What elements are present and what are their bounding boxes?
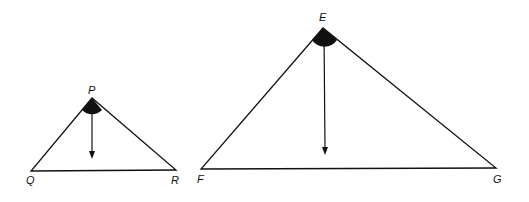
triangle-efg-outline <box>201 28 496 169</box>
arrowhead-e-icon <box>322 147 328 155</box>
triangle-pqr: P Q R <box>26 84 179 186</box>
label-r: R <box>171 174 179 186</box>
triangle-efg: E F G <box>197 11 502 185</box>
label-p: P <box>88 84 96 96</box>
arrowhead-p-icon <box>89 151 95 159</box>
label-q: Q <box>26 174 35 186</box>
arrow-from-e-icon <box>324 34 325 148</box>
label-e: E <box>319 11 327 23</box>
label-f: F <box>197 173 205 185</box>
diagram-canvas: P Q R E F G <box>0 0 529 202</box>
label-g: G <box>493 173 502 185</box>
triangle-pqr-outline <box>31 98 176 171</box>
